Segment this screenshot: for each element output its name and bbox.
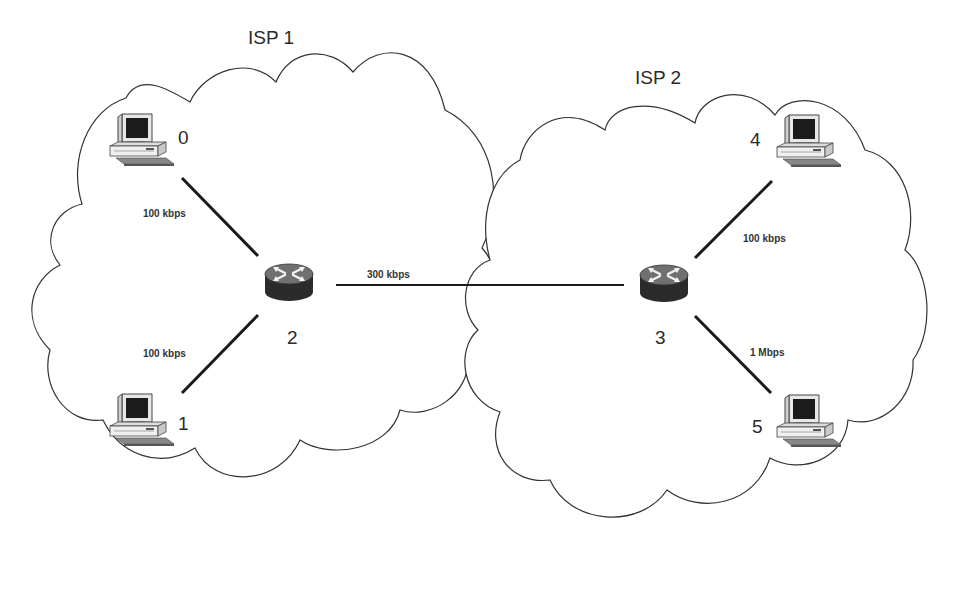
node-label-3: 3	[655, 327, 666, 349]
link-label-1-2: 100 kbps	[143, 348, 186, 359]
cloud-label-isp1: ISP 1	[248, 27, 294, 49]
link-label-3-4: 100 kbps	[743, 233, 786, 244]
network-diagram	[0, 0, 955, 595]
cloud-isp1	[32, 53, 498, 477]
node-label-5: 5	[752, 416, 763, 438]
router-3-router-icon[interactable]	[640, 265, 688, 302]
router-2-router-icon[interactable]	[265, 264, 313, 301]
link-label-0-2: 100 kbps	[143, 208, 186, 219]
node-label-0: 0	[178, 127, 189, 149]
node-label-2: 2	[287, 327, 298, 349]
link-label-3-5: 1 Mbps	[750, 347, 784, 358]
cloud-label-isp2: ISP 2	[635, 67, 681, 89]
node-label-1: 1	[178, 413, 189, 435]
cloud-isp2	[465, 95, 927, 518]
node-label-4: 4	[750, 129, 761, 151]
link-label-2-3: 300 kbps	[367, 269, 410, 280]
